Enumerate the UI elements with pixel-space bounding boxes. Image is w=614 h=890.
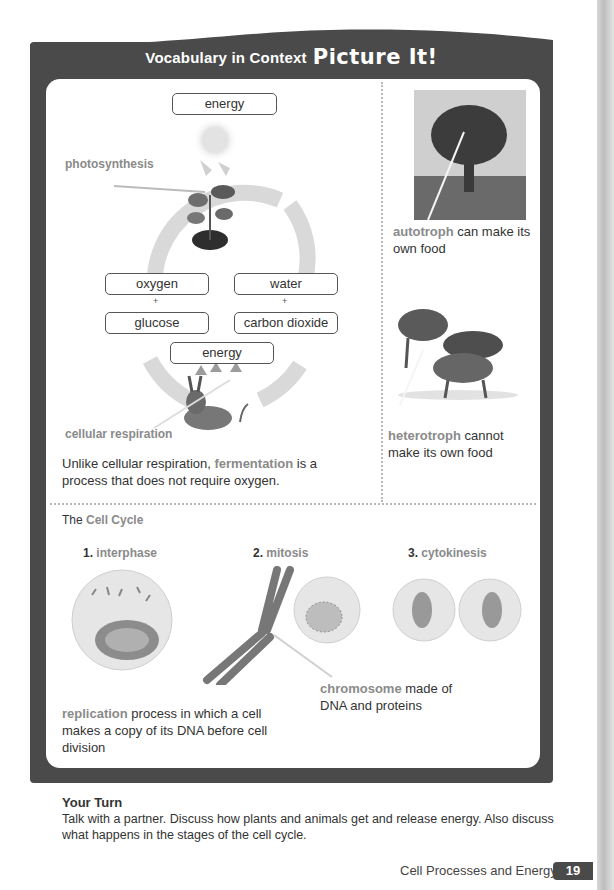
cell-cycle-title: The Cell Cycle [62,512,143,529]
cytokinesis-cells-icon [393,579,521,641]
chromosome-icon [207,570,290,685]
your-turn-body: Talk with a partner. Discuss how plants … [62,811,582,843]
chromosome-definition: chromosome made of DNA and proteins [320,680,480,714]
autotroph-term: autotroph [393,224,454,239]
vertical-divider [381,82,383,502]
stage-name: interphase [96,546,157,560]
page-gutter [597,0,614,890]
stage-mitosis: 2. mitosis [253,546,308,560]
cell-cycle-term: Cell Cycle [86,513,143,527]
title-small: Vocabulary in Context [145,49,306,66]
section-title: Vocabulary in ContextPicture It! [30,45,553,79]
replication-term: replication [62,706,128,721]
chapter-title: Cell Processes and Energy [400,863,557,878]
note-text: Unlike cellular respiration, [62,456,214,471]
plus-sign: + [153,296,158,306]
glucose-box: glucose [105,312,209,334]
energy-output-box: energy [170,342,274,364]
fermentation-term: fermentation [214,456,293,471]
your-turn-heading: Your Turn [62,795,122,810]
cell-cycle-illustration [62,565,542,685]
energy-input-box: energy [172,93,277,115]
mitosis-cell-icon [294,577,360,643]
carbon-dioxide-box: carbon dioxide [234,312,338,334]
replication-definition: replication process in which a cell make… [62,705,292,756]
stage-name: cytokinesis [421,546,486,560]
interphase-cell-icon [72,570,172,670]
heterotroph-definition: heterotroph cannot make its own food [388,427,538,461]
page-number: 19 [553,862,593,880]
wolves-image [388,290,523,405]
water-box: water [234,273,338,295]
tree-image [414,90,526,220]
stage-interphase: 1. interphase [83,546,157,560]
heterotroph-term: heterotroph [388,428,461,443]
photosynthesis-label: photosynthesis [65,157,154,171]
fermentation-note: Unlike cellular respiration, fermentatio… [62,455,362,489]
stage-cytokinesis: 3. cytokinesis [408,546,487,560]
title-big: Picture It! [313,45,438,69]
title-text: The [62,513,86,527]
autotroph-definition: autotroph can make its own food [393,223,538,257]
stage-number: 1. [83,546,93,560]
oxygen-box: oxygen [105,273,209,295]
stage-number: 3. [408,546,418,560]
cellular-respiration-label: cellular respiration [65,427,172,441]
plus-sign: + [282,296,287,306]
chromosome-term: chromosome [320,681,402,696]
horizontal-divider [50,503,536,505]
stage-number: 2. [253,546,263,560]
stage-name: mitosis [266,546,308,560]
